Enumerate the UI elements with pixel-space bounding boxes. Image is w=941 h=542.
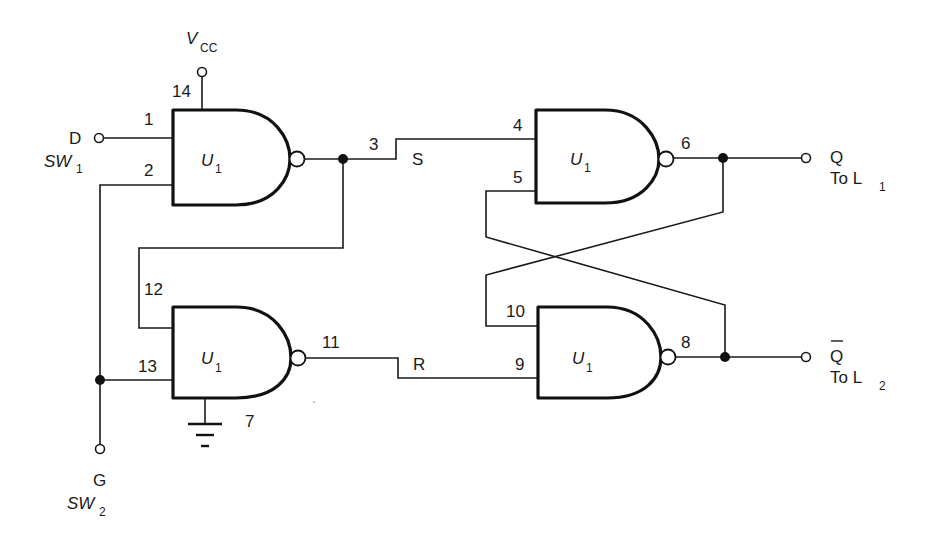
junction-dot (338, 154, 348, 164)
gate-subscript: 1 (215, 361, 222, 375)
gate-subscript: 1 (584, 161, 591, 175)
inverter-bubble (661, 350, 676, 365)
pin-label: 4 (513, 116, 522, 135)
junction-dot (95, 375, 105, 385)
qbar-label: Q (830, 347, 843, 366)
s-signal-label: S (412, 150, 423, 169)
gate-subscript: 1 (215, 162, 222, 176)
junction-dot (718, 153, 728, 163)
nand-gate-body (538, 307, 661, 398)
gate-name: U (201, 151, 214, 170)
q-terminal[interactable] (802, 154, 811, 163)
gate-bottom-right (538, 307, 676, 398)
q-dest-label: To L (830, 169, 862, 188)
qbar-dest-label: To L (830, 368, 862, 387)
q-label: Q (830, 148, 843, 167)
d-label: D (69, 129, 81, 148)
gate-bottom-left (173, 307, 306, 398)
sw2-label: SW (67, 494, 96, 513)
pin-label: 10 (506, 302, 525, 321)
gate-name: U (201, 349, 214, 368)
pin-label: 3 (369, 135, 378, 154)
vcc-terminal[interactable] (198, 68, 207, 77)
pin-label: 9 (515, 355, 524, 374)
sw1-subscript: 1 (76, 162, 83, 176)
sw2-subscript: 2 (99, 505, 106, 519)
pin-label: 11 (322, 333, 340, 352)
gate-top-right (536, 110, 674, 203)
g-terminal[interactable] (96, 445, 105, 454)
pin-label: 13 (138, 357, 157, 376)
gate-name: U (570, 150, 583, 169)
sw1-label: SW (44, 152, 73, 171)
qbar-terminal[interactable] (802, 353, 811, 362)
pin-label: 7 (245, 412, 254, 431)
nand-gate-body (173, 110, 290, 205)
vcc-label: V (186, 29, 199, 48)
q-dest-subscript: 1 (879, 180, 886, 194)
d-terminal[interactable] (95, 134, 104, 143)
pin-label: 1 (144, 110, 153, 129)
vcc-subscript: CC (200, 41, 218, 55)
pin-label: 12 (144, 280, 163, 299)
gate-subscript: 1 (586, 361, 593, 375)
gate-name: U (572, 349, 585, 368)
ground-icon (188, 424, 222, 446)
nand-gate-body (173, 307, 291, 398)
inverter-bubble (291, 351, 306, 366)
gate-top-left (173, 110, 305, 205)
r-signal-label: R (413, 355, 425, 374)
pin-label: 14 (172, 82, 191, 101)
speck (313, 401, 315, 403)
qbar-dest-subscript: 2 (879, 379, 886, 393)
pin-label: 6 (681, 134, 690, 153)
pin-label: 2 (144, 161, 153, 180)
inverter-bubble (659, 152, 674, 167)
pin-label: 5 (513, 168, 522, 187)
g-label: G (93, 471, 106, 490)
circuit-diagram: V CC 14 D SW 1 G SW 2 1 2 3 U 1 12 13 11… (0, 0, 941, 542)
pin-label: 8 (681, 333, 690, 352)
junction-dot (720, 352, 730, 362)
inverter-bubble (290, 152, 305, 167)
nand-gate-body (536, 110, 659, 203)
